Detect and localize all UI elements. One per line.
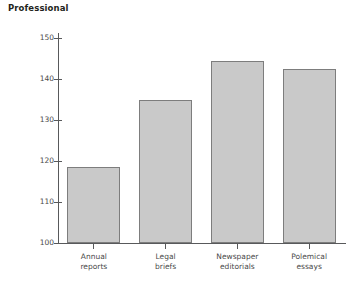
y-tick-label: 130 bbox=[14, 115, 54, 124]
bar bbox=[211, 61, 264, 243]
chart-figure: Professional 100110120130140150 Annualre… bbox=[0, 0, 356, 284]
y-tick-mark bbox=[54, 79, 62, 80]
y-tick-mark bbox=[54, 202, 62, 203]
y-tick-mark bbox=[54, 243, 62, 244]
y-axis-line bbox=[58, 33, 59, 244]
y-tick-mark bbox=[54, 120, 62, 121]
x-tick-mark bbox=[93, 244, 94, 249]
x-axis-category-label: Polemicalessays bbox=[261, 252, 356, 271]
plot-area: 100110120130140150 AnnualreportsLegalbri… bbox=[0, 0, 356, 284]
bar bbox=[283, 69, 336, 243]
x-tick-mark bbox=[165, 244, 166, 249]
x-tick-mark bbox=[309, 244, 310, 249]
y-tick-mark bbox=[54, 161, 62, 162]
y-tick-label: 100 bbox=[14, 238, 54, 247]
y-tick-label: 120 bbox=[14, 156, 54, 165]
y-tick-label: 110 bbox=[14, 197, 54, 206]
x-axis-line bbox=[58, 243, 346, 244]
x-axis-category-label-line: essays bbox=[261, 262, 356, 272]
y-tick-mark bbox=[54, 38, 62, 39]
x-axis-category-label-line: Polemical bbox=[261, 252, 356, 262]
bar bbox=[139, 100, 192, 243]
bar bbox=[67, 167, 120, 243]
x-tick-mark bbox=[237, 244, 238, 249]
y-tick-label: 150 bbox=[14, 33, 54, 42]
y-tick-label: 140 bbox=[14, 74, 54, 83]
